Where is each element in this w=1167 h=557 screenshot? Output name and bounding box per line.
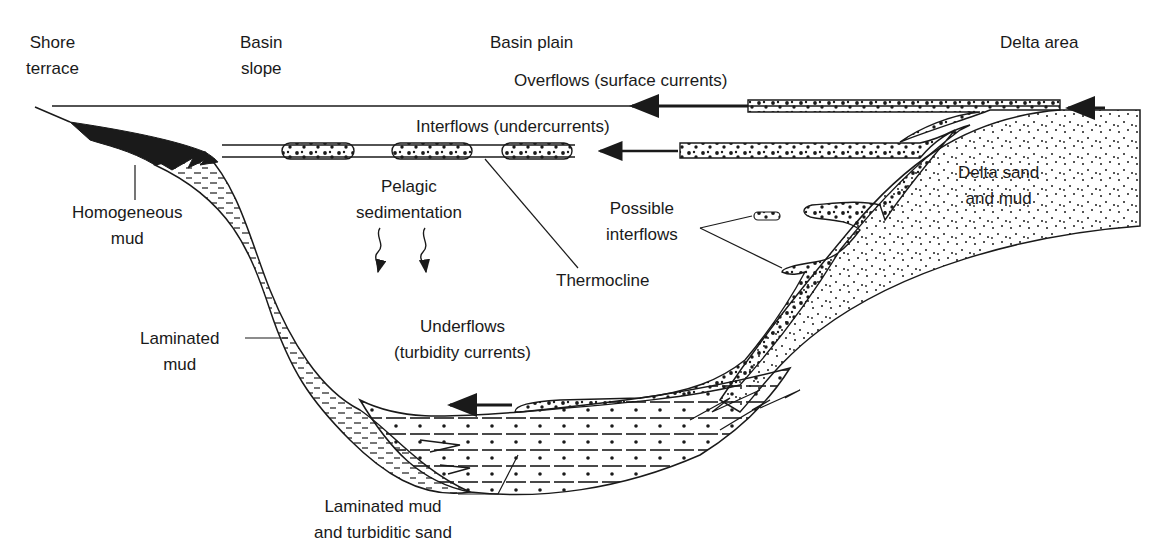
label-overflows: Overflows (surface currents): [514, 68, 728, 94]
label-delta-area: Delta area: [1000, 30, 1078, 56]
label-interflows: Interflows (undercurrents): [416, 114, 610, 140]
thermocline-leader: [485, 159, 578, 268]
pelagic-arrow-1: [376, 228, 381, 272]
interflow-pod-2: [392, 143, 472, 159]
possible-interflows-leader-2: [700, 228, 782, 268]
label-shore-terrace: Shore terrace: [26, 30, 79, 82]
label-homogeneous-mud: Homogeneous mud: [72, 200, 183, 252]
label-laminated-mud: Laminated mud: [140, 326, 219, 378]
label-delta-sand-mud: Delta sand and mud: [958, 160, 1039, 212]
possible-interflows-leader-1: [700, 216, 752, 228]
pelagic-arrow-2: [421, 228, 426, 272]
interflow-pod-3: [502, 143, 572, 159]
homogeneous-mud-wedge: [70, 122, 218, 170]
shore-profile: [35, 107, 70, 122]
label-pelagic: Pelagic sedimentation: [356, 174, 462, 226]
label-basin-plain: Basin plain: [490, 30, 573, 56]
interflow-pod-1: [282, 143, 354, 159]
label-thermocline: Thermocline: [556, 268, 650, 294]
possible-interflow-pod: [754, 212, 780, 220]
label-possible-interflows: Possible interflows: [606, 196, 678, 248]
label-laminated-turbiditic: Laminated mud and turbiditic sand: [314, 494, 452, 546]
label-basin-slope: Basin slope: [240, 30, 283, 82]
label-underflows: Underflows (turbidity currents): [394, 314, 531, 366]
